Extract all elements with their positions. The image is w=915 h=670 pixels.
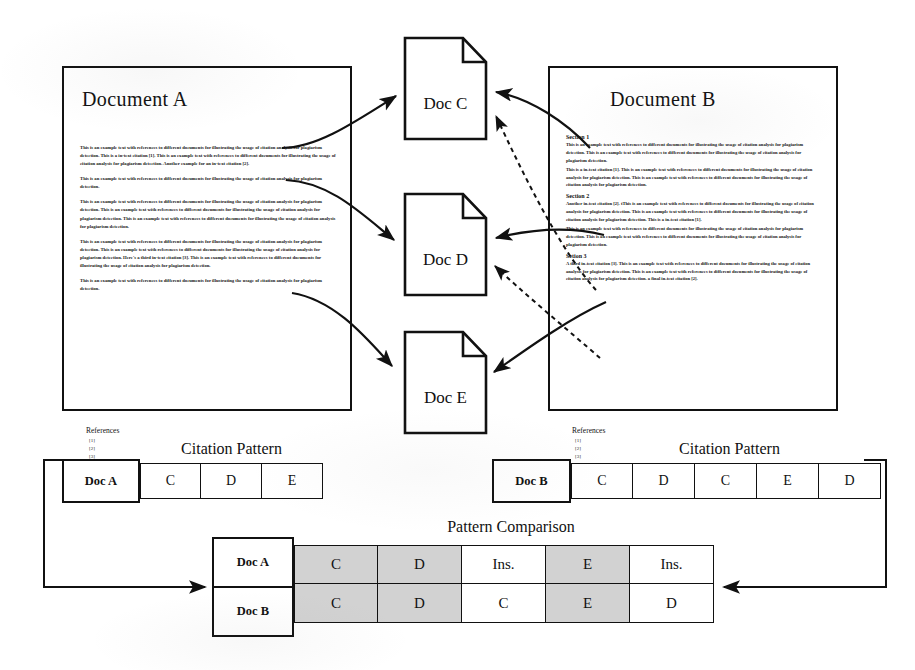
citation-pattern-a-cells: CDE [140, 459, 323, 503]
doc-c-page-icon: Doc C [403, 36, 488, 141]
pattern-comparison-cell-b: D [630, 584, 714, 623]
document-b-section-heading: Section 2 [566, 193, 822, 199]
doc-e-page-icon: Doc E [403, 330, 488, 435]
document-b-section-heading: Section 1 [566, 134, 822, 140]
pattern-comparison-row-b: CDCED [294, 584, 714, 623]
citation-pattern-b-row: Doc B CDCED [492, 459, 881, 503]
pattern-comparison-cell-a: Ins. [462, 545, 546, 584]
pattern-comparison-body: Doc A Doc B CDIns.EIns. CDCED [212, 537, 714, 637]
citation-pattern-a-title: Citation Pattern [140, 440, 323, 458]
document-a-paragraph: This is an example text with references … [80, 175, 336, 191]
pattern-comparison-row-labels: Doc A Doc B [212, 537, 294, 637]
citation-pattern-b-cell: C [571, 463, 633, 499]
citation-pattern-b-cell: D [819, 463, 881, 499]
citation-pattern-b-doc-label: Doc B [492, 459, 571, 503]
page-document-icon [403, 330, 488, 435]
document-b-page: Document B Section 1 This is an example … [548, 66, 838, 411]
references-heading: References [572, 426, 605, 435]
pattern-comparison-cell-a: E [546, 545, 630, 584]
references-heading: References [86, 426, 119, 435]
document-b-paragraph: This is an example text with references … [566, 141, 822, 165]
pattern-comparison-cell-a: C [294, 545, 378, 584]
doc-e-label: Doc E [403, 388, 488, 408]
pattern-comparison-title: Pattern Comparison [308, 518, 714, 536]
doc-c-label: Doc C [403, 94, 488, 114]
document-b-paragraph: A third in-text citation [3]. This is an… [566, 260, 822, 284]
document-a-paragraph: This is an example text with references … [80, 238, 336, 270]
citation-pattern-b-cell: C [695, 463, 757, 499]
document-b-paragraph: This is a in-text citation [1]. This is … [566, 166, 822, 190]
document-b-paragraph: This is an example text with references … [566, 225, 822, 249]
pattern-comparison-row-a-label: Doc A [214, 539, 292, 586]
pattern-comparison-cell-b: D [378, 584, 462, 623]
document-b-paragraph: Another in-text citation [2]. tThis is a… [566, 200, 822, 224]
document-a-body: This is an example text with references … [80, 144, 336, 300]
citation-pattern-a-cell: D [201, 463, 262, 499]
pattern-comparison: Pattern Comparison Doc A Doc B CDIns.EIn… [212, 518, 714, 637]
citation-pattern-a-doc-label: Doc A [62, 459, 140, 503]
diagram-canvas: Document A This is an example text with … [0, 0, 915, 670]
document-a-page: Document A This is an example text with … [62, 66, 352, 411]
document-a-paragraph: This is an example text with references … [80, 277, 336, 293]
pattern-comparison-row-b-label: Doc B [214, 588, 292, 635]
citation-pattern-b-title: Citation Pattern [578, 440, 881, 458]
citation-pattern-a: Citation Pattern Doc A CDE [62, 440, 323, 503]
citation-pattern-b-cells: CDCED [571, 459, 881, 503]
document-a-title: Document A [82, 88, 350, 111]
pattern-comparison-cell-b: E [546, 584, 630, 623]
citation-pattern-b-cell: D [633, 463, 695, 499]
page-document-icon [403, 192, 488, 297]
pattern-comparison-cell-b: C [462, 584, 546, 623]
citation-pattern-b: Citation Pattern Doc B CDCED [492, 440, 881, 503]
document-a-paragraph: This is an example text with references … [80, 198, 336, 230]
document-b-section-heading: Setion 3 [566, 253, 822, 259]
doc-d-label: Doc D [403, 250, 488, 270]
document-a-paragraph: This is an example text with references … [80, 144, 336, 168]
doc-d-page-icon: Doc D [403, 192, 488, 297]
pattern-comparison-cell-a: D [378, 545, 462, 584]
citation-pattern-a-row: Doc A CDE [62, 459, 323, 503]
pattern-comparison-cell-b: C [294, 584, 378, 623]
pattern-comparison-cell-a: Ins. [630, 545, 714, 584]
document-b-body: Section 1 This is an example text with r… [566, 130, 822, 284]
pattern-comparison-row-a: CDIns.EIns. [294, 545, 714, 584]
document-b-title: Document B [610, 88, 836, 111]
pattern-comparison-grid: CDIns.EIns. CDCED [294, 545, 714, 637]
citation-pattern-a-cell: C [140, 463, 201, 499]
citation-pattern-a-cell: E [262, 463, 323, 499]
page-document-icon [403, 36, 488, 141]
citation-pattern-b-cell: E [757, 463, 819, 499]
